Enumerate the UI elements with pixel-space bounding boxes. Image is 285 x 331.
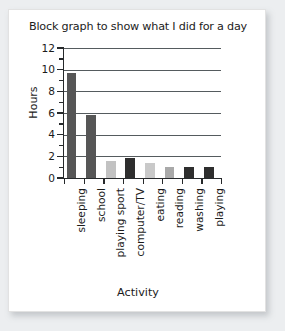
x-category-label-computer-tv: computer/TV [135, 188, 146, 256]
x-axis-title: Activity [9, 286, 267, 299]
x-category-label-playing: playing [214, 188, 225, 227]
x-tick-4 [143, 178, 144, 184]
x-tick-7 [201, 178, 202, 184]
y-tick-4 [57, 134, 64, 135]
x-category-label-school: school [96, 188, 107, 222]
bar-reading [165, 167, 175, 178]
bar-school [86, 115, 96, 178]
x-tick-5 [162, 178, 163, 184]
gridline-10 [64, 70, 221, 71]
y-tick-label-12: 12 [31, 43, 55, 54]
y-tick-label-0: 0 [31, 173, 55, 184]
y-tick-6 [57, 112, 64, 113]
x-tick-2 [103, 178, 104, 184]
x-category-label-sleeping: sleeping [76, 188, 87, 233]
x-tick-1 [84, 178, 85, 184]
y-tick-label-2: 2 [31, 151, 55, 162]
y-tick-0 [57, 177, 64, 178]
bar-eating [145, 163, 155, 178]
y-tick-12 [57, 47, 64, 48]
x-category-label-playing-sport: playing sport [115, 188, 126, 257]
bar-playing-sport [106, 161, 116, 178]
x-tick-0 [64, 178, 65, 184]
x-category-label-washing: washing [194, 188, 205, 232]
y-axis-tick-labels: 024681012 [27, 10, 55, 331]
bar-washing [184, 167, 194, 178]
screenshot-root: Block graph to show what I did for a day… [0, 0, 285, 331]
x-tick-3 [123, 178, 124, 184]
y-tick-10 [57, 69, 64, 70]
bar-sleeping [67, 73, 77, 178]
x-tick-6 [182, 178, 183, 184]
chart-card: Block graph to show what I did for a day… [8, 9, 266, 312]
y-tick-2 [57, 156, 64, 157]
x-tick-8 [221, 178, 222, 184]
gridline-12 [64, 48, 221, 49]
plot-area [64, 48, 221, 178]
y-tick-8 [57, 91, 64, 92]
x-category-label-reading: reading [174, 188, 185, 228]
y-axis-title: Hours [27, 73, 40, 133]
bar-computer-tv [125, 158, 135, 178]
gridline-8 [64, 91, 221, 92]
bar-playing [204, 167, 214, 178]
gridline-6 [64, 113, 221, 114]
x-category-label-eating: eating [155, 188, 166, 222]
